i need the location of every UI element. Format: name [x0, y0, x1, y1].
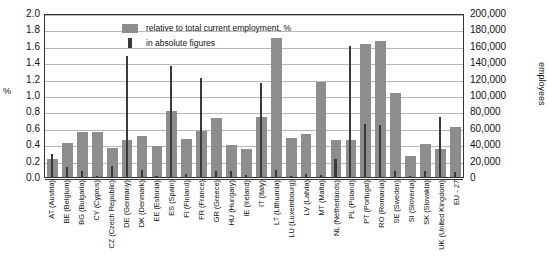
x-axis-label: HU (Hungary) [224, 180, 239, 263]
tick-label: 1.4 [26, 58, 40, 68]
tick-label: 1.8 [26, 25, 40, 35]
x-axis-label: UK (United Kingdom) [434, 180, 449, 263]
x-axis-label: PT (Portugal) [359, 180, 374, 263]
x-axis-label: DK (Denmark) [134, 180, 149, 263]
x-axis-label: GR (Greece) [209, 180, 224, 263]
tick-label: 100,000 [470, 91, 506, 101]
bar-relative [405, 156, 416, 177]
x-axis-label: FR (France) [194, 180, 209, 263]
bar-absolute [141, 170, 143, 177]
bar-relative [450, 127, 461, 177]
x-axis-label: FI (Finland) [179, 180, 194, 263]
bar-absolute [245, 175, 247, 177]
bar-absolute [81, 171, 83, 177]
x-axis-label: EU - 27 [449, 180, 464, 263]
bar-absolute [320, 175, 322, 177]
x-axis-label: MT (Malta) [314, 180, 329, 263]
bar-relative [286, 138, 297, 177]
bar-group [373, 15, 388, 177]
bar-absolute [96, 176, 98, 177]
bar-group [329, 15, 344, 177]
x-axis-label: IE (Ireland) [239, 180, 254, 263]
bar-absolute [111, 166, 113, 177]
bar-relative [77, 132, 88, 177]
x-axis-label-text: RO (Romania) [378, 180, 385, 228]
bar-group [448, 15, 463, 177]
x-axis-label: SK (Slovakia) [419, 180, 434, 263]
x-axis-label-text: AT (Austria) [48, 180, 55, 219]
bar-absolute [334, 159, 336, 177]
x-axis-label: IT (Italy) [254, 180, 269, 263]
tick-label: 40,000 [470, 140, 501, 150]
bar-group [343, 15, 358, 177]
tick-label: 0.6 [26, 124, 40, 134]
bar-absolute [230, 171, 232, 177]
x-axis-label-text: SK (Slovakia) [423, 180, 430, 225]
tick-label: 60,000 [470, 124, 501, 134]
bar-group [418, 15, 433, 177]
x-axis-label-text: LT (Lithuania) [273, 180, 280, 225]
x-axis-label: CZ (Czech Republic) [104, 180, 119, 263]
x-axis-label: LU (Luxembourg) [284, 180, 299, 263]
x-axis-label-text: ES (Spain) [168, 180, 175, 216]
bar-absolute [170, 66, 172, 177]
x-axis-label-text: FI (Finland) [183, 180, 190, 218]
x-axis-label: NL (Netherlands) [329, 180, 344, 263]
bar-relative [181, 139, 192, 177]
x-axis-label: LV (Latvia) [299, 180, 314, 263]
tick-label: 140,000 [470, 58, 506, 68]
x-axis-label-text: MT (Malta) [318, 180, 325, 216]
bar-group [299, 15, 314, 177]
chart-legend: relative to total current employment, % … [122, 22, 291, 52]
bar-group [75, 15, 90, 177]
x-axis-label-text: BE (Belgium) [63, 180, 70, 224]
tick-label: 0.4 [26, 140, 40, 150]
bar-absolute [349, 46, 351, 177]
x-axis-label-text: IE (Ireland) [243, 180, 250, 217]
bar-absolute [454, 172, 456, 177]
chart-figure: % employees 2.01.81.61.41.21.00.80.60.40… [0, 0, 548, 263]
bar-absolute [200, 78, 202, 177]
x-axis-label-text: DE (Germany) [123, 180, 130, 228]
x-axis-label: SE (Sweden) [389, 180, 404, 263]
bar-absolute [409, 176, 411, 177]
bar-absolute [379, 125, 381, 177]
legend-label-relative: relative to total current employment, % [146, 23, 291, 33]
bar-group [45, 15, 60, 177]
tick-label: 180,000 [470, 25, 506, 35]
bar-group [433, 15, 448, 177]
bar-group [358, 15, 373, 177]
tick-label: 200,000 [470, 9, 506, 19]
bar-absolute [155, 176, 157, 177]
bar-absolute [394, 171, 396, 177]
bar-absolute [126, 56, 128, 177]
legend-label-absolute: in absolute figures [146, 38, 215, 48]
x-axis-label-text: NL (Netherlands) [333, 180, 340, 236]
x-axis-label-text: BG (Bulgaria) [78, 180, 85, 225]
x-axis-label-text: PT (Portugal) [363, 180, 370, 224]
bar-group [105, 15, 120, 177]
bar-absolute [290, 176, 292, 177]
bar-absolute [185, 174, 187, 177]
tick-label: 0.2 [26, 157, 40, 167]
bar-relative [211, 118, 222, 177]
y-axis-right-title: employees [536, 62, 547, 106]
x-axis-label: BE (Belgium) [59, 180, 74, 263]
x-axis-label: EE (Estonia) [149, 180, 164, 263]
bar-absolute [215, 171, 217, 177]
x-axis-category-labels: AT (Austria)BE (Belgium)BG (Bulgaria)CY … [44, 180, 464, 263]
bar-group [60, 15, 75, 177]
tick-label: 0.8 [26, 107, 40, 117]
x-axis-label-text: UK (United Kingdom) [438, 180, 445, 250]
bar-group [314, 15, 329, 177]
x-axis-label-text: SI (Slovenia) [408, 180, 415, 222]
x-axis-label-text: EE (Estonia) [153, 180, 160, 222]
bar-group [388, 15, 403, 177]
tick-label: 20,000 [470, 157, 501, 167]
legend-item-absolute: in absolute figures [122, 37, 291, 49]
x-axis-label-text: CY (Cyprus) [93, 180, 100, 221]
bar-absolute [260, 83, 262, 177]
x-axis-label-text: IT (Italy) [258, 180, 265, 207]
bar-absolute [364, 124, 366, 177]
tick-label: 0 [470, 173, 476, 183]
